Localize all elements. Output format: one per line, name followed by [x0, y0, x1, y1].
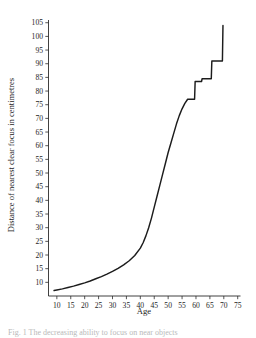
x-axis-tick-label: 10	[53, 301, 61, 310]
y-axis-tick-label: 45	[35, 182, 43, 191]
figure-container: 1015202530354045505560657075808590951001…	[0, 0, 256, 338]
y-axis-tick-label: 30	[35, 223, 43, 232]
x-axis-tick-label: 15	[67, 301, 75, 310]
x-axis-title: Age	[137, 306, 152, 316]
x-axis-tick-label: 35	[123, 301, 131, 310]
y-axis-title: Distance of nearest clear focus in centi…	[6, 78, 16, 232]
x-axis-tick-label: 50	[164, 301, 172, 310]
x-axis-tick-label: 25	[95, 301, 103, 310]
figure-caption: Fig. 1 The decreasing ability to focus o…	[8, 328, 248, 337]
y-axis-tick-label: 65	[35, 128, 43, 137]
x-axis-tick-label: 70	[220, 301, 228, 310]
y-axis-tick-label: 25	[35, 237, 43, 246]
y-axis-tick-label: 95	[35, 46, 43, 55]
y-axis-tick-label: 100	[32, 32, 44, 41]
y-axis-tick-label: 35	[35, 210, 43, 219]
x-axis-tick-label: 60	[192, 301, 200, 310]
y-axis-tick-label: 75	[35, 100, 43, 109]
y-axis-tick-label: 70	[35, 114, 43, 123]
y-axis-tick-label: 50	[35, 169, 43, 178]
y-axis-tick-label: 15	[35, 264, 43, 273]
x-axis-tick-label: 30	[109, 301, 117, 310]
y-axis-tick-label: 60	[35, 141, 43, 150]
y-axis-tick-label: 80	[35, 87, 43, 96]
presbyopia-line-chart: 1015202530354045505560657075808590951001…	[0, 0, 256, 338]
x-axis-tick-label: 20	[81, 301, 89, 310]
y-axis-tick-label: 40	[35, 196, 43, 205]
x-axis-tick-label: 65	[206, 301, 214, 310]
x-axis-tick-label: 75	[234, 301, 242, 310]
y-axis-tick-label: 85	[35, 73, 43, 82]
y-axis-tick-label: 90	[35, 59, 43, 68]
y-axis-tick-label: 55	[35, 155, 43, 164]
y-axis-tick-label: 20	[35, 251, 43, 260]
y-axis-tick-group: 1015202530354045505560657075808590951001…	[32, 18, 49, 287]
x-axis-tick-label: 55	[178, 301, 186, 310]
y-axis-tick-label: 10	[35, 278, 43, 287]
data-curve	[54, 25, 223, 290]
y-axis-tick-label: 105	[32, 18, 44, 27]
x-axis-tick-label: 45	[150, 301, 158, 310]
